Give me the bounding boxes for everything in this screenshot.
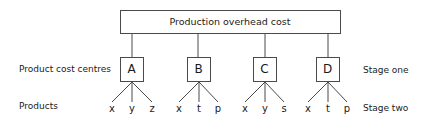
products-row-label: Products — [19, 102, 58, 111]
centre-node-c: C — [253, 57, 276, 81]
product-c-2: y — [260, 104, 270, 114]
product-d-2: t — [323, 104, 333, 114]
product-d-1: x — [303, 104, 313, 114]
product-b-3: p — [213, 104, 223, 114]
stage-one-label: Stage one — [363, 66, 409, 75]
product-c-3: s — [279, 104, 289, 114]
centre-node-b: B — [187, 57, 210, 81]
product-a-2: y — [127, 104, 137, 114]
stage-two-label: Stage two — [363, 104, 408, 113]
product-c-1: x — [240, 104, 250, 114]
product-b-2: t — [194, 104, 204, 114]
centre-node-a: A — [120, 57, 143, 81]
root-node-label: Production overhead cost — [120, 10, 340, 33]
product-b-1: x — [174, 104, 184, 114]
product-d-3: p — [342, 104, 352, 114]
centre-node-d: D — [316, 57, 339, 81]
centres-row-label: Product cost centres — [19, 65, 111, 74]
product-a-3: z — [147, 104, 157, 114]
product-a-1: x — [107, 104, 117, 114]
